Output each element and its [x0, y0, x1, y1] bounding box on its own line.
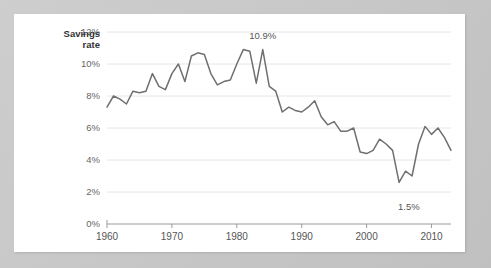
y-axis-title-line1: Savings — [64, 28, 100, 39]
y-axis-tick-labels: 0%2%4%6%8%10%12% — [81, 26, 101, 229]
annotation-15: 1.5% — [398, 201, 420, 212]
x-tick-label-2010: 2010 — [420, 231, 443, 242]
x-tick-label-2000: 2000 — [355, 231, 378, 242]
y-tick-label-10%: 10% — [81, 58, 101, 69]
annotation-109: 10.9% — [249, 30, 276, 41]
y-tick-label-0%: 0% — [86, 218, 100, 229]
y-tick-label-4%: 4% — [86, 154, 100, 165]
x-tick-label-1980: 1980 — [226, 231, 249, 242]
y-tick-label-8%: 8% — [86, 90, 100, 101]
y-tick-label-6%: 6% — [86, 122, 100, 133]
savings-rate-line-chart: 0%2%4%6%8%10%12% 19601970198019902000201… — [14, 14, 465, 252]
chart-card: 0%2%4%6%8%10%12% 19601970198019902000201… — [14, 14, 465, 252]
x-tick-label-1990: 1990 — [291, 231, 314, 242]
x-axis-line — [107, 220, 451, 224]
x-axis-tick-marks — [107, 224, 432, 228]
x-tick-label-1960: 1960 — [96, 231, 119, 242]
y-tick-label-2%: 2% — [86, 186, 100, 197]
x-axis-tick-labels: 196019701980199020002010 — [96, 231, 443, 242]
data-series-line — [107, 50, 451, 183]
savings-rate-line — [107, 50, 451, 183]
chart-svg: 0%2%4%6%8%10%12% 19601970198019902000201… — [14, 14, 465, 252]
y-axis-title-line2: rate — [83, 39, 100, 50]
gridlines — [107, 32, 451, 192]
x-tick-label-1970: 1970 — [161, 231, 184, 242]
